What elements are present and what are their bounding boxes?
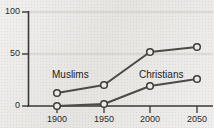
y-axis-label-0: 0 — [0, 100, 20, 110]
chart-plot-area — [0, 0, 214, 128]
series-christians-line — [57, 79, 197, 106]
data-point-muslims-1950 — [101, 82, 108, 89]
data-point-muslims-1900 — [54, 90, 61, 97]
series-annotation-christians: Christians — [139, 69, 183, 80]
data-point-muslims-2050 — [194, 44, 201, 51]
series-christians — [54, 76, 201, 110]
data-point-christians-2050 — [194, 76, 201, 83]
x-axis-label-1900: 1900 — [39, 114, 75, 124]
y-axis-label-50: 50 — [0, 48, 20, 58]
line-chart: 100 50 0 1900 1950 2000 2050 Muslims Chr… — [0, 0, 214, 128]
x-axis-label-2050: 2050 — [179, 114, 214, 124]
x-axis-label-1950: 1950 — [86, 114, 122, 124]
y-axis-label-100: 100 — [0, 6, 20, 16]
data-point-christians-1900 — [54, 103, 61, 110]
x-axis-ticks — [57, 106, 197, 113]
data-point-christians-1950 — [101, 101, 108, 108]
x-axis-label-2000: 2000 — [132, 114, 168, 124]
data-point-muslims-2000 — [147, 49, 154, 56]
series-annotation-muslims: Muslims — [52, 69, 89, 80]
data-point-christians-2000 — [147, 83, 154, 90]
